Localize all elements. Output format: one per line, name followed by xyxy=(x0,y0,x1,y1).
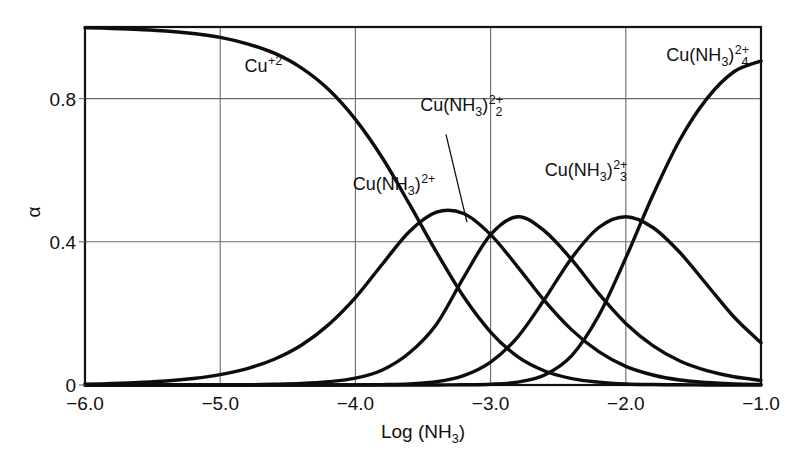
y-tick-label: 0 xyxy=(65,375,76,396)
speciation-chart: −6.0−5.0−4.0−3.0−2.0−1.0 00.40.8 Cu+2Cu(… xyxy=(0,0,800,459)
x-tick-label: −5.0 xyxy=(201,393,239,414)
x-tick-label: −1.0 xyxy=(742,393,780,414)
x-tick-label: −3.0 xyxy=(472,393,510,414)
y-tick-label: 0.8 xyxy=(50,89,76,110)
x-tick-label: −4.0 xyxy=(337,393,375,414)
x-tick-label: −6.0 xyxy=(66,393,104,414)
x-tick-label: −2.0 xyxy=(607,393,645,414)
y-axis-title: α xyxy=(23,206,44,217)
y-tick-label: 0.4 xyxy=(50,232,77,253)
chart-background xyxy=(0,0,800,459)
